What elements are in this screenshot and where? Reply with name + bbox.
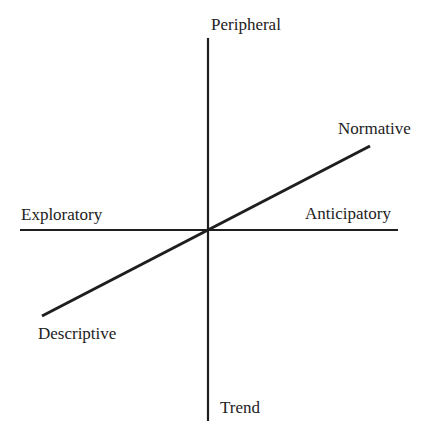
label-peripheral: Peripheral: [211, 16, 281, 33]
label-exploratory: Exploratory: [21, 206, 102, 223]
label-trend: Trend: [220, 399, 260, 416]
axes-diagram: Peripheral Normative Exploratory Anticip…: [0, 0, 443, 440]
label-normative: Normative: [338, 120, 411, 137]
label-anticipatory: Anticipatory: [305, 205, 391, 222]
label-descriptive: Descriptive: [38, 325, 116, 342]
